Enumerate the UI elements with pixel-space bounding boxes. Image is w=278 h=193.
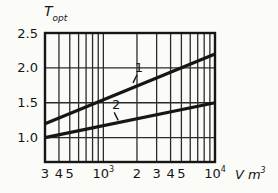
chart: 121.01.52.02.53451032345104Vm3Topt	[0, 0, 278, 193]
y-tick-label: 2.0	[17, 60, 38, 75]
y-axis-title: Topt	[44, 3, 68, 23]
series-2-leader	[114, 112, 118, 120]
x-tick-label: 2	[133, 166, 141, 181]
series-1-line	[45, 54, 215, 124]
x-tick-label: 104	[204, 165, 226, 181]
x-tick-label: 3	[152, 166, 160, 181]
y-tick-label: 1.5	[17, 95, 38, 110]
x-tick-label: 4	[55, 166, 63, 181]
x-tick-label: 103	[93, 165, 115, 181]
x-axis-title: Vm3	[235, 166, 266, 182]
x-tick-label: 3	[41, 166, 49, 181]
series-2-line	[45, 103, 215, 138]
y-tick-label: 1.0	[17, 130, 38, 145]
series-2-label: 2	[112, 97, 120, 112]
chart-canvas: 121.01.52.02.53451032345104Vm3Topt	[0, 0, 278, 193]
series-1-label: 1	[135, 60, 143, 75]
x-tick-label: 5	[66, 166, 74, 181]
x-tick-label: 4	[166, 166, 174, 181]
y-tick-label: 2.5	[17, 26, 38, 41]
plot-border	[45, 33, 215, 162]
x-tick-label: 5	[177, 166, 185, 181]
